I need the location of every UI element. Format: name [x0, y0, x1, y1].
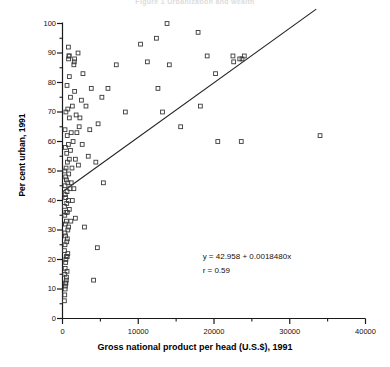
data-point-marker	[239, 140, 243, 144]
x-tick-label: 30000	[265, 327, 315, 336]
data-point-marker	[123, 110, 127, 114]
correlation-coefficient: r = 0.59	[203, 266, 230, 275]
x-tick-label: 20000	[189, 327, 239, 336]
data-point-marker	[92, 278, 96, 282]
data-point-marker	[145, 60, 149, 64]
data-point-marker	[155, 36, 159, 40]
x-tick-label: 40000	[341, 327, 390, 336]
data-point-marker	[100, 95, 104, 99]
y-tick-label: 90	[24, 48, 56, 57]
data-point-marker	[156, 87, 160, 91]
data-point-marker	[161, 110, 165, 114]
data-point-marker	[232, 60, 236, 64]
data-point-marker	[165, 22, 169, 26]
data-point-marker	[73, 157, 77, 161]
scatter-plot-figure: Figure 1 Urbanization and wealth Per cen…	[0, 0, 390, 367]
data-point-marker	[73, 216, 77, 220]
data-point-marker	[83, 225, 87, 229]
data-point-marker	[214, 72, 218, 76]
data-point-marker	[63, 293, 67, 297]
data-point-marker	[114, 63, 118, 67]
data-point-marker	[71, 140, 75, 144]
data-point-marker	[65, 134, 69, 138]
y-tick-label: 100	[24, 19, 56, 28]
data-point-marker	[65, 84, 69, 88]
data-point-marker	[96, 122, 100, 126]
data-point-marker	[69, 131, 73, 135]
data-point-marker	[216, 140, 220, 144]
data-point-marker	[318, 134, 322, 138]
data-point-marker	[63, 128, 67, 132]
data-point-marker	[70, 199, 74, 203]
data-point-marker	[70, 166, 74, 170]
data-point-marker	[139, 42, 143, 46]
data-point-marker	[167, 63, 171, 67]
data-point-marker	[72, 187, 76, 191]
data-point-marker	[69, 148, 73, 152]
data-point-marker	[77, 163, 81, 167]
data-point-marker	[81, 72, 85, 76]
data-point-marker	[69, 219, 73, 223]
x-tick-label: 10000	[113, 327, 163, 336]
data-point-marker	[106, 87, 110, 91]
y-tick-label: 60	[24, 137, 56, 146]
y-tick-label: 80	[24, 78, 56, 87]
data-point-marker	[94, 160, 98, 164]
x-tick-label: 0	[38, 327, 88, 336]
data-point-marker	[80, 98, 84, 102]
y-tick-label: 70	[24, 107, 56, 116]
data-point-marker	[75, 131, 79, 135]
data-point-marker	[74, 113, 78, 117]
plot-canvas	[0, 0, 390, 367]
data-point-marker	[198, 104, 202, 108]
regression-equation: y = 42.958 + 0.0018480x	[203, 252, 292, 261]
data-point-marker	[70, 104, 74, 108]
data-point-marker	[88, 128, 92, 132]
data-point-marker	[73, 89, 77, 93]
data-point-marker	[77, 125, 81, 129]
data-point-marker	[179, 125, 183, 129]
data-point-marker	[67, 75, 71, 79]
data-point-marker	[86, 154, 90, 158]
data-point-marker	[67, 116, 71, 120]
data-point-marker	[69, 95, 73, 99]
y-tick-label: 10	[24, 284, 56, 293]
y-tick-label: 40	[24, 196, 56, 205]
data-point-marker	[102, 181, 106, 185]
data-point-marker	[205, 54, 209, 58]
data-point-marker	[95, 246, 99, 250]
data-point-marker	[80, 143, 84, 147]
data-point-marker	[231, 54, 235, 58]
data-point-marker	[65, 151, 69, 155]
data-point-marker	[67, 45, 71, 49]
data-point-marker	[89, 87, 93, 91]
y-tick-label: 50	[24, 166, 56, 175]
data-point-marker	[84, 104, 88, 108]
data-point-marker	[196, 30, 200, 34]
data-point-marker	[78, 116, 82, 120]
y-tick-label: 20	[24, 255, 56, 264]
y-tick-label: 30	[24, 225, 56, 234]
regression-line	[63, 9, 317, 192]
data-point-marker	[76, 51, 80, 55]
y-tick-label: 0	[24, 314, 56, 323]
